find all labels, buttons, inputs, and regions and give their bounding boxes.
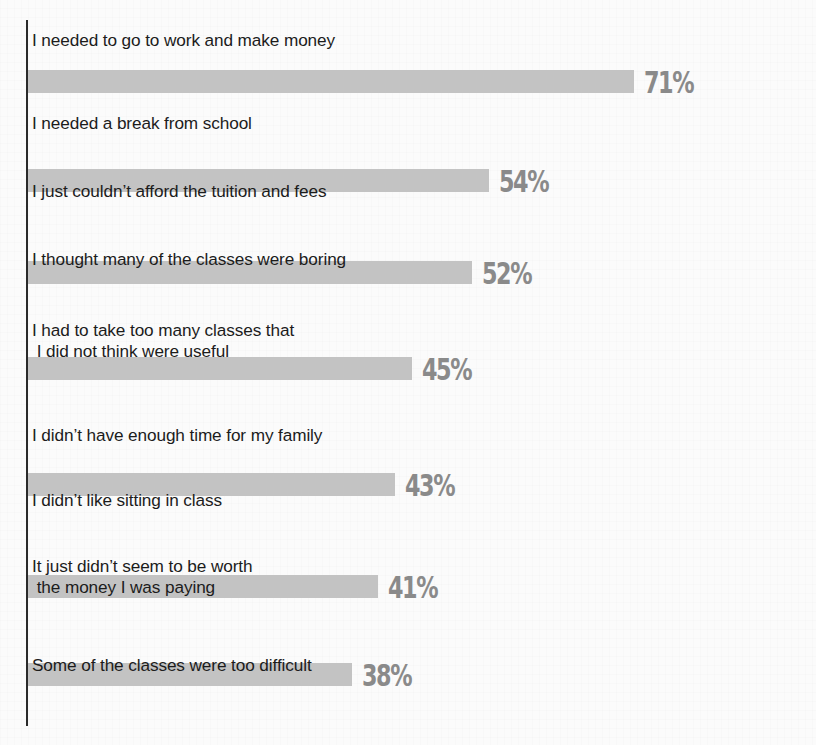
bar-category-label: I needed a break from school [32,113,816,134]
plot-area: I needed to go to work and make money71%… [0,0,816,745]
bar-category-label: I thought many of the classes were borin… [32,249,816,270]
bar-category-label: I didn’t have enough time for my family [32,425,816,446]
bar-category-label: It just didn’t seem to be worth the mone… [32,556,816,598]
bar-category-label: I didn’t like sitting in class [32,490,816,511]
bar-category-label: I just couldn’t afford the tuition and f… [32,181,816,202]
bar-category-label: I needed to go to work and make money [32,30,816,51]
bar-fill [28,70,634,93]
bar-chart-figure: I needed to go to work and make money71%… [0,0,816,745]
bar-category-label: Some of the classes were too difficult [32,655,816,676]
bar-track: 71% [28,70,816,94]
bar-category-label: I had to take too many classes that I di… [32,320,816,362]
bar-value-text: 71% [644,67,693,98]
bar-value-label: 71% [644,67,712,98]
